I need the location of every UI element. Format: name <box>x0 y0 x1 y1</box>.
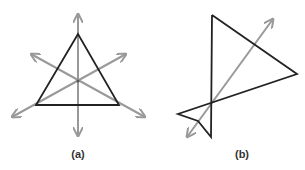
symmetry-axes-a <box>12 14 145 136</box>
irregular-polygon <box>178 15 297 137</box>
centroid-point <box>77 80 80 83</box>
figure-label-b: (b) <box>235 148 249 160</box>
rising-axis-arrow <box>12 54 126 117</box>
figure-b <box>178 15 297 137</box>
figure-label-a: (a) <box>71 148 84 160</box>
diagonal-axis-arrow <box>187 19 273 137</box>
figure-a <box>12 14 145 136</box>
diagram-canvas <box>0 0 305 170</box>
